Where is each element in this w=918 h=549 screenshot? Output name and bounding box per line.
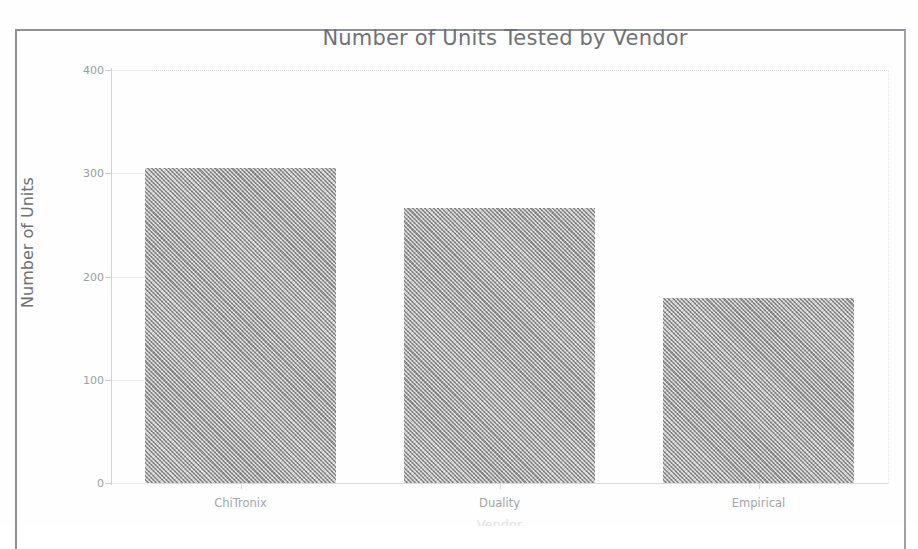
bar-empirical <box>663 298 853 483</box>
y-tick-mark <box>105 483 112 484</box>
y-tick-label: 0 <box>58 477 104 490</box>
y-axis-title: Number of Units <box>18 153 37 333</box>
y-tick-label: 300 <box>58 167 104 180</box>
y-tick-label: 100 <box>58 373 104 386</box>
x-tick-mark <box>500 484 501 489</box>
x-tick-label: Empirical <box>732 496 785 510</box>
x-axis-title: Vendor <box>111 517 888 526</box>
x-tick-label: Duality <box>479 496 520 510</box>
x-tick-label: ChiTronix <box>214 496 267 510</box>
y-tick-label: 400 <box>58 64 104 77</box>
x-tick-mark <box>759 484 760 489</box>
chart-title: Number of Units Tested by Vendor <box>120 26 890 50</box>
y-tick-label: 200 <box>58 270 104 283</box>
y-tick-stub <box>112 483 152 484</box>
x-tick-mark <box>241 484 242 489</box>
bar-duality <box>404 208 594 483</box>
bars-layer <box>111 70 888 483</box>
bar-chitronix <box>145 168 335 483</box>
